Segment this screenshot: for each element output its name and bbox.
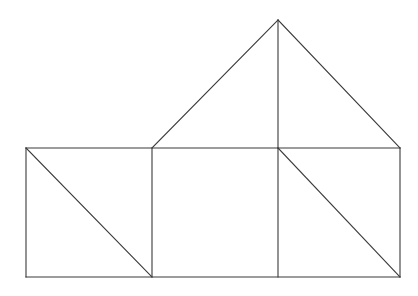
geometric-figure-canvas — [0, 0, 418, 296]
middle-rectangle-face — [152, 148, 278, 277]
